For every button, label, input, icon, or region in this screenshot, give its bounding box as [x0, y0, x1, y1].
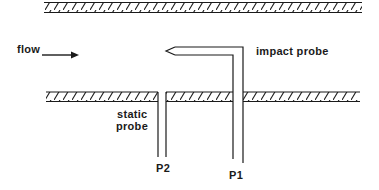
- flow-label: flow: [17, 43, 40, 55]
- impact-probe-label: impact probe: [256, 45, 329, 57]
- p1-label: P1: [229, 169, 243, 181]
- pitot-tube-diagram: flow impact probe static probe P2 P1: [0, 0, 379, 190]
- bottom-pipe-wall: [46, 92, 360, 102]
- right-arrow-icon: [42, 52, 79, 59]
- static-probe-label-line1: static: [117, 108, 148, 120]
- flow-indicator: flow: [17, 43, 79, 59]
- p2-label: P2: [156, 162, 170, 174]
- top-pipe-wall: [44, 3, 362, 13]
- static-probe: [158, 92, 166, 157]
- impact-probe: [166, 47, 243, 163]
- static-probe-label-line2: probe: [116, 120, 148, 132]
